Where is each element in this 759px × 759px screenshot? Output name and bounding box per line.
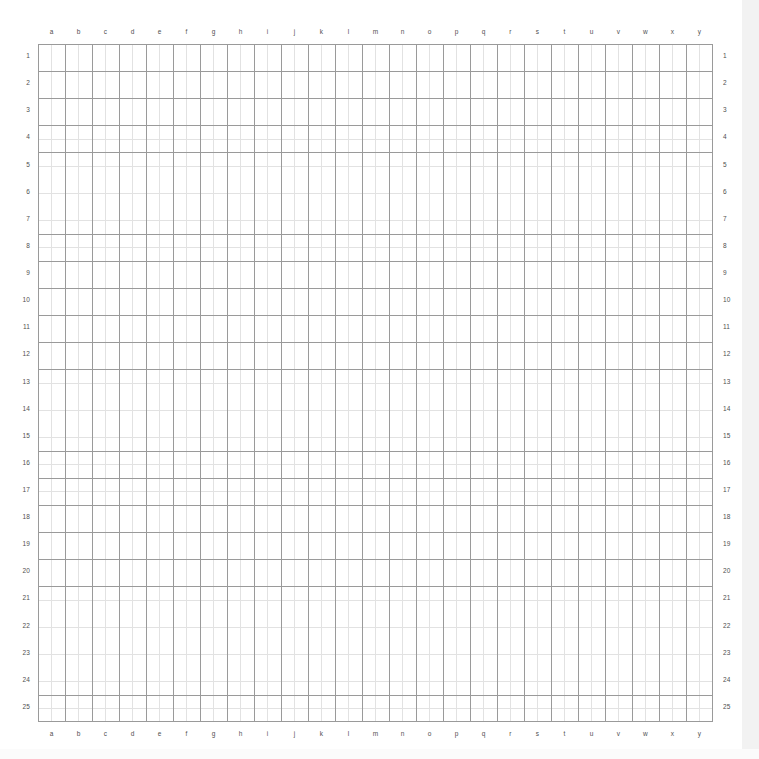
grid-cell-b24[interactable] [65, 668, 92, 695]
grid-cell-u2[interactable] [578, 71, 605, 98]
grid-cell-h22[interactable] [227, 614, 254, 641]
grid-cell-g10[interactable] [200, 288, 227, 315]
grid-cell-f19[interactable] [173, 532, 200, 559]
grid-cell-u23[interactable] [578, 641, 605, 668]
grid-cell-p16[interactable] [443, 451, 470, 478]
grid-cell-d14[interactable] [119, 397, 146, 424]
grid-cell-u7[interactable] [578, 207, 605, 234]
grid-cell-x17[interactable] [659, 478, 686, 505]
grid-cell-t17[interactable] [551, 478, 578, 505]
grid-cell-l18[interactable] [335, 505, 362, 532]
grid-cell-g12[interactable] [200, 342, 227, 369]
grid-cell-c13[interactable] [92, 369, 119, 396]
grid-cell-j5[interactable] [281, 152, 308, 179]
grid-cell-r5[interactable] [497, 152, 524, 179]
grid-cell-q15[interactable] [470, 424, 497, 451]
grid-cell-g22[interactable] [200, 614, 227, 641]
grid-cell-s12[interactable] [524, 342, 551, 369]
grid-cell-q25[interactable] [470, 695, 497, 722]
grid-cell-f16[interactable] [173, 451, 200, 478]
grid-cell-e14[interactable] [146, 397, 173, 424]
grid-cell-x1[interactable] [659, 44, 686, 71]
grid-cell-k3[interactable] [308, 98, 335, 125]
grid-cell-r12[interactable] [497, 342, 524, 369]
grid-cell-g7[interactable] [200, 207, 227, 234]
grid-cell-o6[interactable] [416, 180, 443, 207]
grid-cell-l9[interactable] [335, 261, 362, 288]
grid-cell-w3[interactable] [632, 98, 659, 125]
grid-cell-f14[interactable] [173, 397, 200, 424]
grid-cell-f2[interactable] [173, 71, 200, 98]
grid-cell-g1[interactable] [200, 44, 227, 71]
grid-cell-l11[interactable] [335, 315, 362, 342]
grid-cell-h23[interactable] [227, 641, 254, 668]
grid-cell-e9[interactable] [146, 261, 173, 288]
grid-cell-m25[interactable] [362, 695, 389, 722]
grid-cell-a1[interactable] [38, 44, 65, 71]
grid-cell-m5[interactable] [362, 152, 389, 179]
grid-cell-t4[interactable] [551, 125, 578, 152]
grid-cell-i22[interactable] [254, 614, 281, 641]
grid-cell-q8[interactable] [470, 234, 497, 261]
grid-cell-h15[interactable] [227, 424, 254, 451]
grid-cell-e25[interactable] [146, 695, 173, 722]
grid-cell-m6[interactable] [362, 180, 389, 207]
grid-cell-r16[interactable] [497, 451, 524, 478]
grid-cell-a19[interactable] [38, 532, 65, 559]
grid-cell-e2[interactable] [146, 71, 173, 98]
grid-cell-g8[interactable] [200, 234, 227, 261]
grid-cell-h13[interactable] [227, 369, 254, 396]
grid-cell-y1[interactable] [686, 44, 713, 71]
grid-cell-m16[interactable] [362, 451, 389, 478]
grid-cell-a2[interactable] [38, 71, 65, 98]
grid-cell-j10[interactable] [281, 288, 308, 315]
grid-cell-x25[interactable] [659, 695, 686, 722]
grid-cell-h1[interactable] [227, 44, 254, 71]
grid-cell-f25[interactable] [173, 695, 200, 722]
grid-cell-l1[interactable] [335, 44, 362, 71]
grid-cell-e13[interactable] [146, 369, 173, 396]
grid-cell-n3[interactable] [389, 98, 416, 125]
grid-cell-g25[interactable] [200, 695, 227, 722]
grid-cell-y21[interactable] [686, 586, 713, 613]
grid-cell-s9[interactable] [524, 261, 551, 288]
grid-cell-f7[interactable] [173, 207, 200, 234]
grid-cell-m22[interactable] [362, 614, 389, 641]
grid-cell-u16[interactable] [578, 451, 605, 478]
grid-cell-u10[interactable] [578, 288, 605, 315]
grid-cell-f20[interactable] [173, 559, 200, 586]
grid-cell-e12[interactable] [146, 342, 173, 369]
grid-cell-t7[interactable] [551, 207, 578, 234]
grid-cell-t5[interactable] [551, 152, 578, 179]
grid-cell-e23[interactable] [146, 641, 173, 668]
grid-cell-l21[interactable] [335, 586, 362, 613]
grid-cell-o9[interactable] [416, 261, 443, 288]
grid-cell-b1[interactable] [65, 44, 92, 71]
grid-cell-r15[interactable] [497, 424, 524, 451]
grid-cell-i20[interactable] [254, 559, 281, 586]
grid-cell-o20[interactable] [416, 559, 443, 586]
grid-cell-t12[interactable] [551, 342, 578, 369]
grid-cell-s25[interactable] [524, 695, 551, 722]
grid-cell-j21[interactable] [281, 586, 308, 613]
grid-cell-g18[interactable] [200, 505, 227, 532]
grid-cell-v11[interactable] [605, 315, 632, 342]
grid-cell-w8[interactable] [632, 234, 659, 261]
grid-cell-c8[interactable] [92, 234, 119, 261]
grid-cell-v14[interactable] [605, 397, 632, 424]
grid-cell-u17[interactable] [578, 478, 605, 505]
grid-cell-b9[interactable] [65, 261, 92, 288]
grid-cell-a6[interactable] [38, 180, 65, 207]
grid-cell-e7[interactable] [146, 207, 173, 234]
grid-cell-b8[interactable] [65, 234, 92, 261]
grid-cells[interactable] [38, 44, 713, 722]
grid-cell-y4[interactable] [686, 125, 713, 152]
grid-cell-q6[interactable] [470, 180, 497, 207]
grid-cell-b6[interactable] [65, 180, 92, 207]
grid-cell-m1[interactable] [362, 44, 389, 71]
grid-cell-r14[interactable] [497, 397, 524, 424]
grid-cell-b15[interactable] [65, 424, 92, 451]
grid-cell-l10[interactable] [335, 288, 362, 315]
grid-cell-t22[interactable] [551, 614, 578, 641]
grid-cell-t3[interactable] [551, 98, 578, 125]
